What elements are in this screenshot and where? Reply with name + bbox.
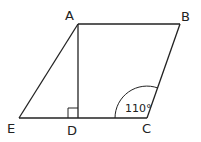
geometry-diagram: A B E D C 110° — [0, 0, 201, 142]
point-label-b: B — [181, 9, 190, 24]
segment-ea — [19, 24, 78, 118]
angle-value-c: 110° — [125, 102, 152, 115]
segment-bc — [147, 24, 180, 118]
right-angle-marker — [68, 108, 78, 118]
point-label-c: C — [142, 121, 151, 136]
point-label-a: A — [65, 8, 74, 23]
point-label-e: E — [7, 121, 15, 136]
point-label-d: D — [67, 123, 77, 138]
